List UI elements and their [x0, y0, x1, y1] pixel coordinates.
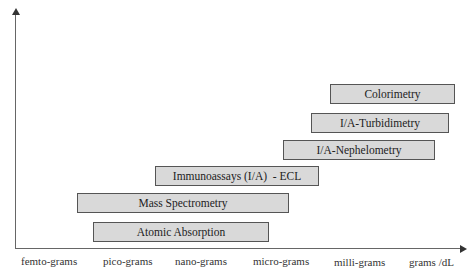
x-tick-pico-grams: pico-grams [103, 255, 152, 267]
range-box-mass-spectrometry: Mass Spectrometry [77, 193, 289, 213]
range-box-immunoassays-ecl: Immunoassays (I/A) - ECL [155, 166, 319, 186]
range-box-colorimetry: Colorimetry [330, 84, 455, 104]
range-box-nephelometry: I/A-Nephelometry [283, 140, 435, 160]
range-box-turbidimetry: I/A-Turbidimetry [311, 113, 449, 133]
x-axis-arrow-icon [460, 245, 467, 253]
x-axis-line [15, 248, 462, 249]
x-tick-nano-grams: nano-grams [175, 255, 227, 267]
x-tick-milli-grams: milli-grams [334, 256, 385, 268]
y-axis-arrow-icon [12, 8, 20, 15]
y-axis-line [15, 14, 16, 248]
x-tick-femto-grams: femto-grams [21, 255, 77, 267]
range-box-atomic-absorption: Atomic Absorption [93, 222, 269, 242]
x-tick-micro-grams: micro-grams [253, 255, 309, 267]
x-tick-grams-per-dl: grams /dL [409, 256, 454, 268]
